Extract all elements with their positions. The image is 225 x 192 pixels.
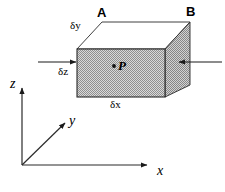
point-p-dot bbox=[112, 64, 116, 68]
dimension-label-delta-y: δy bbox=[70, 20, 81, 31]
vertex-label-b: B bbox=[186, 5, 195, 18]
axis-label-y: y bbox=[69, 114, 75, 128]
dimension-label-delta-x: δx bbox=[110, 99, 121, 110]
point-label-p: P bbox=[118, 59, 126, 72]
vertex-label-a: A bbox=[97, 6, 106, 19]
dimension-label-delta-z: δz bbox=[58, 66, 68, 77]
control-volume-diagram bbox=[0, 0, 225, 192]
axis-label-x: x bbox=[157, 164, 163, 178]
box-front-face bbox=[77, 49, 165, 97]
y-axis-line bbox=[22, 123, 65, 165]
axis-label-z: z bbox=[10, 77, 15, 91]
